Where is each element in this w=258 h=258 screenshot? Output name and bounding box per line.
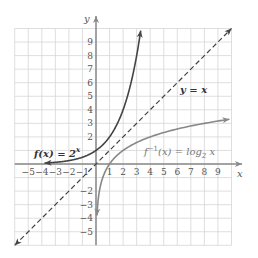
x-tick-label: 2 [120,167,126,177]
y-tick-label: −3 [80,200,94,210]
x-tick-label: 7 [188,167,194,177]
x-tick-label: 8 [202,167,208,177]
y-tick-label: 6 [87,78,93,88]
label-y-equals-x: y = x [179,84,208,95]
x-tick-label: 6 [174,167,180,177]
y-axis-label: y [83,13,90,24]
y-tick-label: −2 [80,186,93,196]
y-tick-label: 4 [87,105,93,115]
x-axis-label: x [237,168,243,179]
y-tick-label: −5 [80,227,94,237]
y-tick-label: 8 [87,51,93,61]
x-tick-label: −4 [35,167,49,177]
label-exponential: f(x) = 2x [33,145,81,159]
x-tick-label: 5 [161,167,167,177]
x-tick-label: −2 [62,167,75,177]
y-tick-label: 5 [87,91,93,101]
graph-canvas: −5−4−3−2−112345678998765432−2−3−4−5 y x … [0,0,258,258]
y-tick-label: 9 [87,37,93,47]
x-tick-label: 3 [134,167,140,177]
y-tick-label: 3 [87,118,93,128]
y-tick-label: 7 [87,64,93,74]
y-tick-label: −4 [80,213,94,223]
x-tick-label: −3 [49,167,63,177]
x-tick-label: −1 [76,167,89,177]
x-tick-label: −5 [22,167,36,177]
x-tick-label: 9 [215,167,221,177]
x-tick-label: 4 [147,167,153,177]
y-tick-label: 2 [87,132,93,142]
